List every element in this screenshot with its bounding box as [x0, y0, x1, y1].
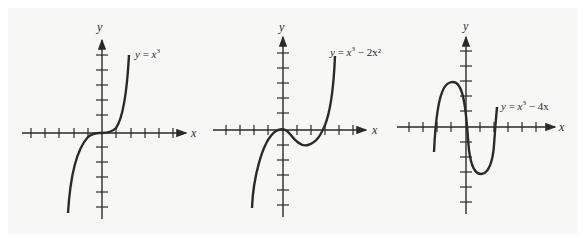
graph-cubic-minus-2x2 [213, 37, 366, 217]
x-axis-label: x [559, 121, 564, 133]
equation-label-cubic: y = x3 [135, 49, 160, 60]
y-axis-label: y [463, 20, 468, 32]
equation-label-cubic-minus-2x2: y = x3 − 2x² [330, 47, 381, 58]
y-axis-label: y [279, 21, 284, 33]
equation-label-cubic-minus-4x: y = x3 − 4x [501, 101, 549, 112]
graph-cubic-minus-4x [397, 37, 555, 214]
graph-cubic [22, 40, 186, 219]
graphs-canvas [0, 0, 583, 238]
x-axis-label: x [372, 124, 377, 136]
x-axis-label: x [191, 127, 196, 139]
curve-cubic [68, 55, 129, 213]
y-axis-label: y [97, 21, 102, 33]
curve-cubic-minus-2x2 [252, 56, 335, 208]
